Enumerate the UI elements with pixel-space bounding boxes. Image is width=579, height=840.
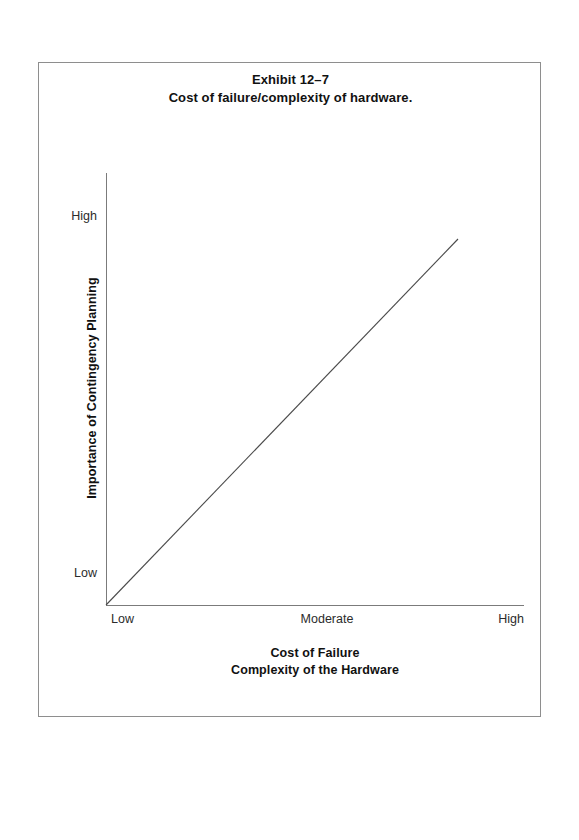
x-tick-label-high: High	[457, 612, 524, 626]
x-tick-label-low: Low	[111, 612, 134, 626]
x-axis-title-line-2: Complexity of the Hardware	[106, 662, 524, 679]
x-axis-title: Cost of Failure Complexity of the Hardwa…	[106, 645, 524, 679]
x-axis-title-line-1: Cost of Failure	[106, 645, 524, 662]
plot-area: High Low Low Moderate High Importance of…	[39, 63, 542, 718]
exhibit-page: Exhibit 12–7 Cost of failure/complexity …	[0, 0, 579, 840]
y-axis-title: Importance of Contingency Planning	[85, 268, 99, 508]
exhibit-frame: Exhibit 12–7 Cost of failure/complexity …	[38, 62, 541, 717]
x-tick-label-moderate: Moderate	[277, 612, 377, 626]
y-tick-label-low: Low	[39, 566, 97, 580]
y-tick-label-high: High	[39, 209, 97, 223]
